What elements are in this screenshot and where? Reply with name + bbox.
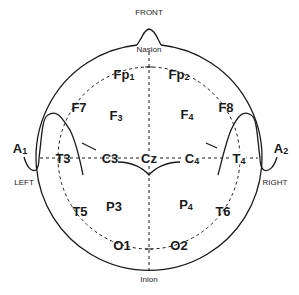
electrode-f8: F8 bbox=[218, 101, 233, 114]
electrode-a1: A1 bbox=[13, 142, 27, 155]
nose-outline bbox=[137, 29, 161, 45]
inion-label: Inion bbox=[140, 276, 157, 284]
electrode-f7: F7 bbox=[71, 101, 86, 114]
electrode-fp2: Fp2 bbox=[169, 68, 190, 81]
electrode-f3: F3 bbox=[110, 109, 123, 122]
electrode-t4: T4 bbox=[232, 152, 247, 165]
electrode-o2: O2 bbox=[170, 239, 187, 252]
electrode-p4: P4 bbox=[179, 198, 193, 211]
electrode-c4: C4 bbox=[184, 152, 200, 165]
electrode-t3: T3 bbox=[55, 152, 70, 165]
left-label: LEFT bbox=[14, 179, 34, 187]
electrode-cz: Cz bbox=[140, 152, 158, 165]
electrode-c3: C3 bbox=[102, 152, 119, 165]
left-ear-outline bbox=[24, 113, 83, 175]
electrode-a2: A2 bbox=[274, 142, 288, 155]
nasion-label: Nasion bbox=[137, 46, 162, 54]
left-fissure-line bbox=[82, 143, 96, 150]
right-label: RIGHT bbox=[263, 179, 288, 187]
electrode-fp1: Fp1 bbox=[114, 68, 135, 81]
right-ear-outline bbox=[218, 113, 277, 175]
electrode-t5: T5 bbox=[72, 205, 87, 218]
electrode-p3: P3 bbox=[106, 200, 122, 213]
front-label: FRONT bbox=[135, 9, 163, 17]
right-fissure-line bbox=[206, 143, 217, 148]
electrode-f4: F4 bbox=[181, 108, 194, 121]
electrode-t6: T6 bbox=[215, 205, 230, 218]
electrode-o1: O1 bbox=[113, 239, 130, 252]
